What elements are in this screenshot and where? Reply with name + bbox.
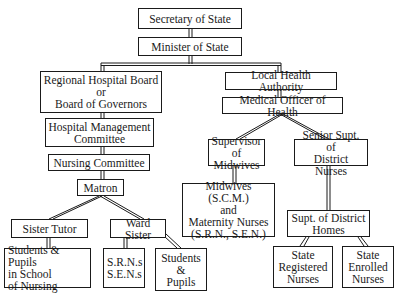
node-nursing-committee: Nursing Committee [48,154,150,171]
node-supervisor-of-midwives: Supervisor of Midwives [208,139,265,166]
node-students-pupils: Students & Pupils [155,248,207,291]
node-students-pupils-school: Students & Pupils in School of Nursing [4,248,91,288]
node-ward-sister: Ward Sister [110,219,166,238]
node-state-registered-nurses: State Registered Nurses [273,246,333,288]
node-minister-of-state: Minister of State [138,37,242,56]
node-medical-officer-of-health: Medical Officer of Health [222,97,343,114]
node-srns-sens: S.R.N.s S.E.N.s [103,248,145,288]
node-sister-tutor: Sister Tutor [11,219,88,238]
node-state-enrolled-nurses: State Enrolled Nurses [342,246,394,288]
node-local-health-authority: Local Health Authority [225,72,337,90]
node-secretary-of-state: Secretary of State [138,8,242,29]
node-hospital-management-committee: Hospital Management Committee [45,118,154,147]
node-senior-supt-district-nurses: Senior Supt. of District Nurses [294,139,368,166]
node-midwives-maternity-nurses: Midwives (S.C.M.) and Maternity Nurses (… [182,183,275,237]
node-matron: Matron [77,179,124,196]
node-supt-district-homes: Supt. of District Homes [287,210,370,237]
node-regional-hospital-board: Regional Hospital Board or Board of Gove… [40,71,162,113]
